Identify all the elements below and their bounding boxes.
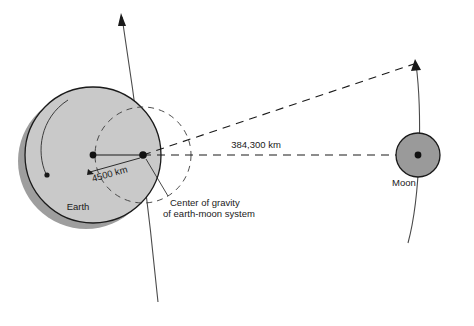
earth-label: Earth bbox=[67, 201, 90, 212]
earth-center-dot bbox=[90, 152, 97, 159]
earth-moon-distance-label: 384,300 km bbox=[231, 139, 281, 150]
moon-label: Moon bbox=[392, 177, 416, 188]
earth-rotation-arrowhead bbox=[44, 172, 49, 177]
moon-center-dot bbox=[415, 152, 422, 159]
earth-moon-diagram: 4500 km 384,300 km Earth Moon Center of … bbox=[0, 0, 474, 326]
barycenter-dot bbox=[139, 151, 147, 159]
barycenter-caption-line1: Center of gravity bbox=[170, 197, 240, 208]
earth-orbit-arrowhead bbox=[118, 13, 126, 26]
moon-body-group bbox=[396, 133, 440, 177]
diagram-canvas: 4500 km 384,300 km Earth Moon Center of … bbox=[0, 0, 474, 326]
barycenter-caption-line2: of earth-moon system bbox=[163, 208, 255, 219]
